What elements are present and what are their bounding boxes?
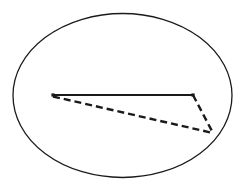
edge-lower-dashed — [53, 97, 213, 134]
figure-canvas — [0, 0, 245, 190]
vertex-b-marker — [191, 93, 194, 96]
diagram-svg — [0, 0, 245, 190]
vertex-a-marker — [51, 93, 54, 96]
edge-right-dashed — [193, 95, 213, 133]
